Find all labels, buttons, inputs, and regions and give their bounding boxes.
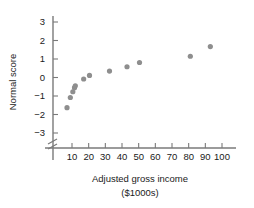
x-axis-units-label: ($1000s) [121, 187, 159, 198]
x-axis: 102030405060708090100 [45, 143, 236, 162]
y-tick-label: 3 [40, 16, 45, 27]
data-point [73, 83, 78, 88]
x-axis-title: Adjusted gross income [92, 173, 188, 184]
x-tick-label: 100 [214, 151, 230, 162]
y-tick-label: −2 [34, 109, 45, 120]
data-point [107, 68, 112, 73]
data-point [188, 54, 193, 59]
data-point [68, 95, 73, 100]
x-tick-label: 10 [67, 151, 78, 162]
y-axis-title: Normal score [7, 54, 18, 111]
y-axis-tick-marks [53, 22, 58, 133]
x-axis-tick-labels: 102030405060708090100 [67, 151, 230, 162]
data-point [87, 73, 92, 78]
x-tick-label: 80 [183, 151, 194, 162]
scatter-plot-canvas: 3210−1−2−3 102030405060708090100 Normal … [0, 0, 254, 208]
x-tick-label: 90 [200, 151, 211, 162]
data-point [137, 60, 142, 65]
data-point [64, 105, 69, 110]
x-tick-label: 40 [117, 151, 128, 162]
x-tick-label: 70 [167, 151, 178, 162]
x-tick-label: 60 [150, 151, 161, 162]
x-tick-label: 30 [100, 151, 111, 162]
y-axis: 3210−1−2−3 [34, 16, 58, 160]
data-points [64, 44, 213, 110]
x-axis-tick-marks [72, 143, 222, 148]
x-tick-label: 50 [133, 151, 144, 162]
data-point [208, 44, 213, 49]
data-point [124, 64, 129, 69]
y-tick-label: −1 [34, 90, 45, 101]
y-tick-label: 0 [40, 72, 45, 83]
y-tick-label: 1 [40, 53, 45, 64]
x-tick-label: 20 [83, 151, 94, 162]
data-point [81, 76, 86, 81]
y-tick-label: −3 [34, 127, 45, 138]
normal-probability-plot-figure: 3210−1−2−3 102030405060708090100 Normal … [0, 0, 254, 208]
y-axis-tick-labels: 3210−1−2−3 [34, 16, 45, 138]
y-tick-label: 2 [40, 35, 45, 46]
